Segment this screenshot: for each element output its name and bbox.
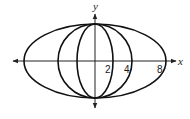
tick-label-8: 8 [157,64,163,75]
y-axis-label: y [92,0,98,12]
x-axis-label: x [177,55,183,67]
tick-label-4: 4 [124,64,130,75]
tick-label-2: 2 [105,64,111,75]
ellipse-diagram: x y 2 4 8 [0,0,190,119]
